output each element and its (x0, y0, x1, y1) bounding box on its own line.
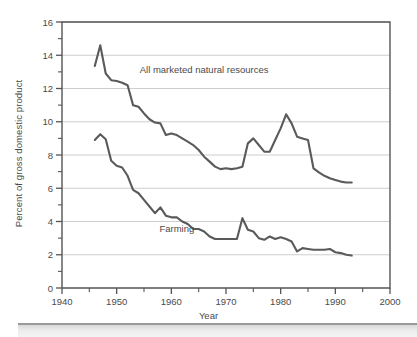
x-tick-label: 1990 (325, 296, 346, 307)
line-chart-plot: 0246810121416194019501960197019801990200… (0, 0, 417, 337)
x-tick-label: 1950 (106, 296, 127, 307)
x-tick-label: 1940 (51, 296, 72, 307)
x-tick-label: 2000 (379, 296, 400, 307)
x-tick-label: 1960 (161, 296, 182, 307)
y-tick-label: 4 (48, 216, 53, 227)
chart-figure: Percent of gross domestic product Year 0… (0, 0, 417, 337)
y-axis-title: Percent of gross domestic product (13, 54, 24, 254)
y-tick-label: 0 (48, 283, 53, 294)
footer-bar (18, 323, 417, 337)
series-line-farming (95, 134, 352, 255)
x-axis-title: Year (0, 310, 417, 321)
y-tick-label: 10 (42, 116, 53, 127)
y-tick-label: 8 (48, 150, 53, 161)
y-tick-label: 12 (42, 83, 53, 94)
y-tick-label: 16 (42, 17, 53, 28)
x-tick-label: 1970 (215, 296, 236, 307)
x-axis: 1940195019601970198019902000 (51, 288, 400, 307)
x-tick-label: 1980 (270, 296, 291, 307)
y-axis: 0246810121416 (42, 17, 62, 294)
series-label-farming: Farming (159, 223, 194, 234)
y-tick-label: 6 (48, 183, 53, 194)
gridlines (62, 22, 390, 255)
y-tick-label: 14 (42, 50, 53, 61)
y-tick-label: 2 (48, 249, 53, 260)
series-label-all-marketed-natural-resources: All marketed natural resources (140, 64, 269, 75)
